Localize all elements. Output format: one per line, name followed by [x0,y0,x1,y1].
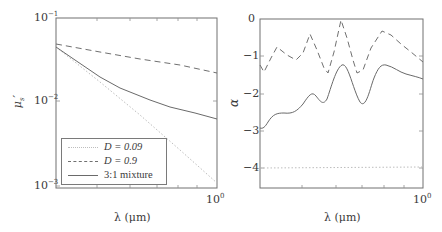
legend-item-d09: D = 0.9 [62,154,166,168]
left-curve-mixture [56,47,217,119]
legend-label: 3:1 mixture [104,168,153,182]
left-xlabel: λ (μm) [114,211,151,224]
left-plot-svg [0,0,221,232]
left-legend: D = 0.09 D = 0.9 3:1 mixture [61,138,167,185]
right-ytick-1: −1 [243,49,259,62]
left-curve-d09 [56,44,217,73]
legend-label: D = 0.09 [104,140,142,154]
left-ytick-1: 10−1 [34,10,58,24]
legend-sample-dashed [68,161,98,162]
right-ylabel: α [227,99,241,107]
right-chart: 0 −1 −2 −3 −4 100 λ (μm) α [221,0,442,232]
right-xlabel: λ (μm) [324,211,361,224]
left-ylabel: μs′ [11,95,26,108]
legend-label: D = 0.9 [104,154,137,168]
left-ytick-3: 10−3 [34,178,58,192]
right-curve-d009 [260,167,423,168]
right-ytick-2: −2 [243,87,259,100]
legend-sample-dotted [68,147,98,148]
legend-sample-solid [68,175,98,176]
right-xtick-1: 100 [413,192,431,206]
legend-item-d009: D = 0.09 [62,140,166,154]
right-ytick-4: −4 [243,161,259,174]
legend-item-mixture: 3:1 mixture [62,168,166,182]
left-chart: 10−1 10−2 10−3 100 λ (μm) μs′ D = 0.09 D… [0,0,221,232]
right-plot-frame [260,19,423,188]
right-plot-svg [221,0,442,232]
right-ytick-3: −3 [243,124,259,137]
right-ticks [260,56,423,188]
right-curve-mixture [260,65,423,128]
left-ytick-2: 10−2 [34,93,58,107]
right-ytick-0: 0 [248,12,255,25]
